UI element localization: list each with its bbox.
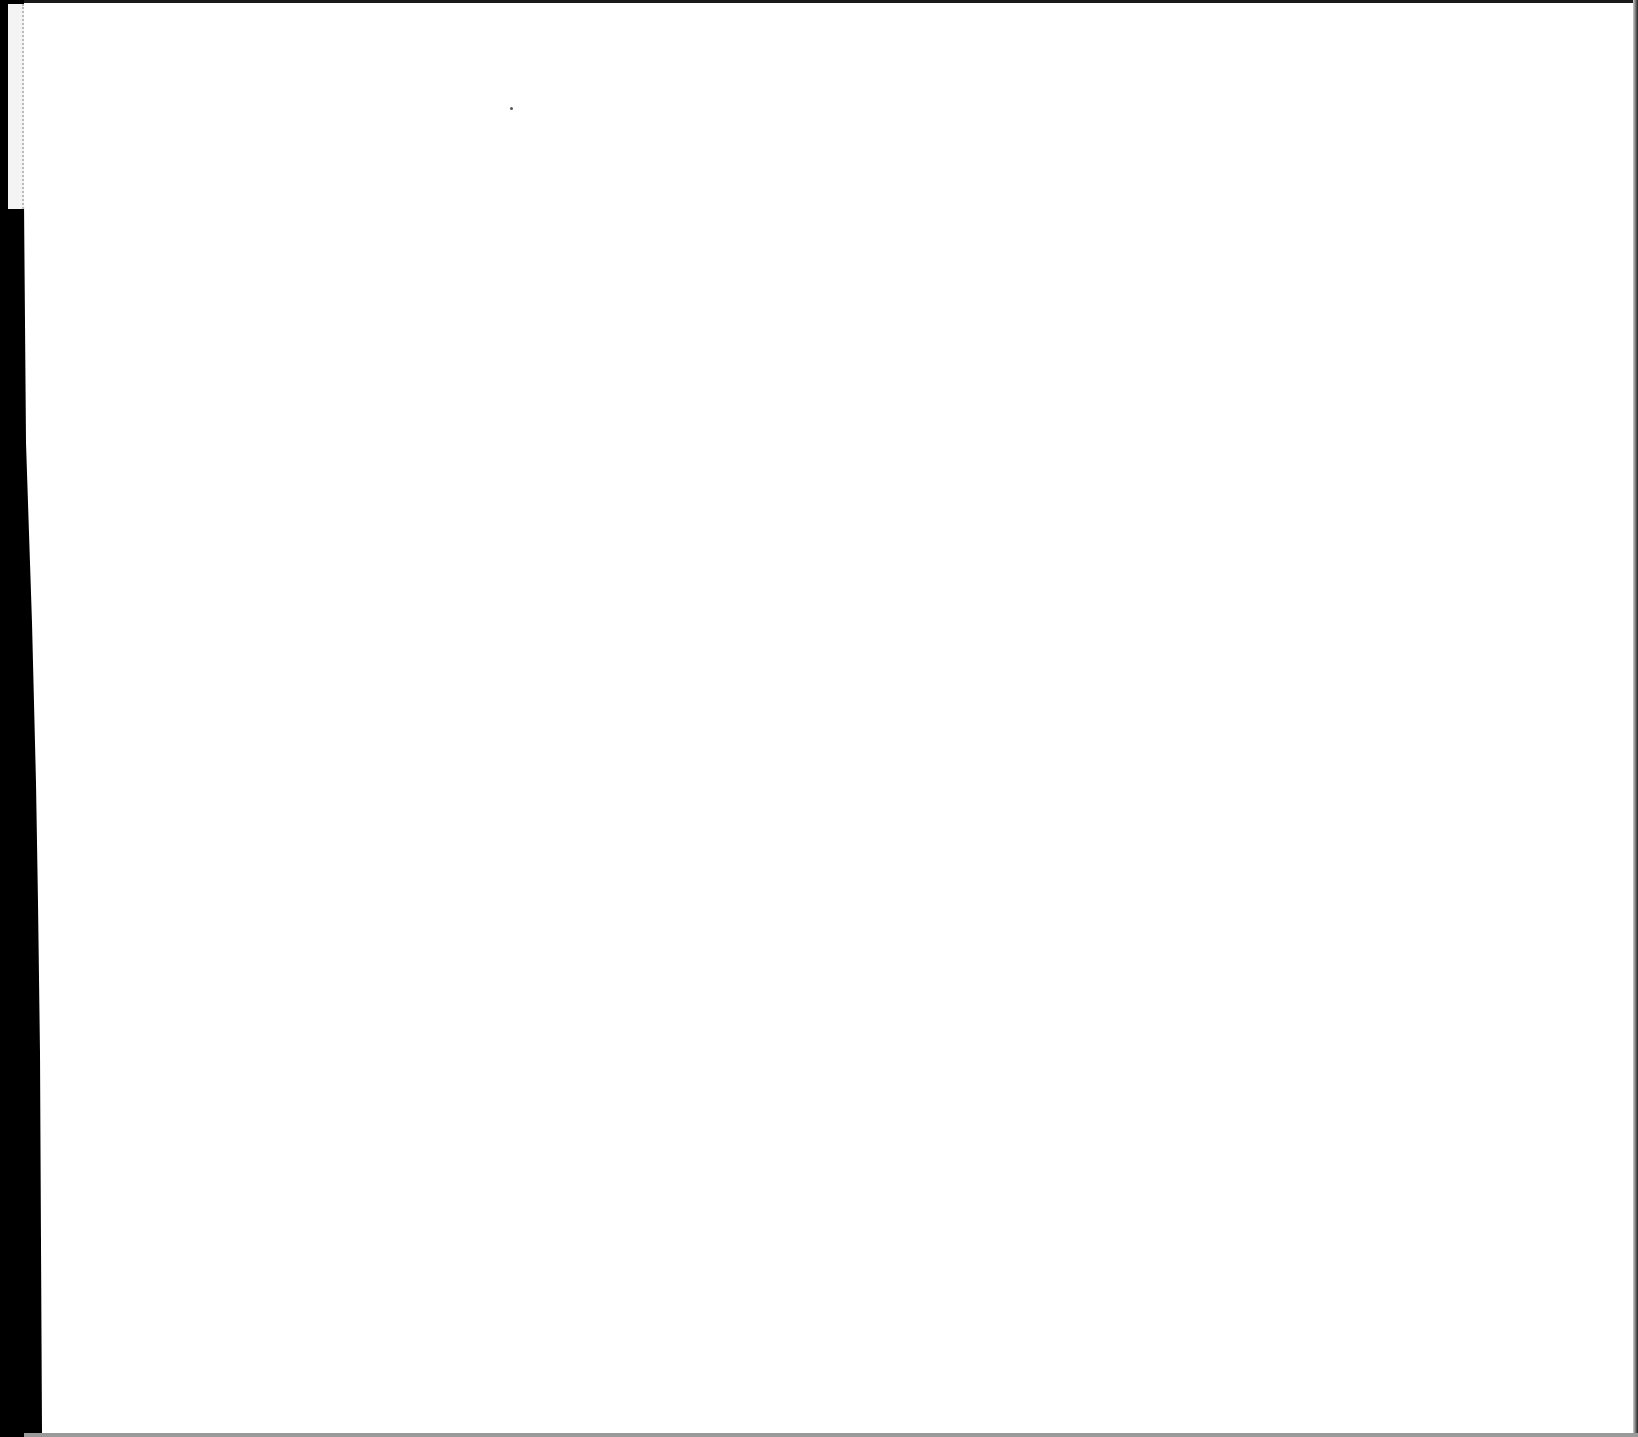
blank-page <box>24 3 1633 1434</box>
page-top-border <box>24 0 1638 3</box>
scanned-page-background <box>0 0 1638 1437</box>
dust-speck <box>510 107 513 110</box>
page-bottom-strip <box>24 1433 1638 1437</box>
torn-page-edge <box>8 4 24 209</box>
page-right-border <box>1633 0 1638 1437</box>
